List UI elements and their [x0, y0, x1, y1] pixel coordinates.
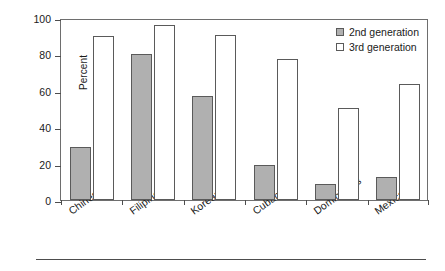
- bar-chinese-2nd-generation: [70, 147, 91, 200]
- x-tick-cubans: [245, 200, 246, 205]
- legend-item-2nd-generation: 2nd generation: [336, 26, 419, 38]
- legend-item-3rd-generation: 3rd generation: [336, 41, 419, 53]
- y-tick-label-80: 80: [39, 49, 51, 61]
- bar-cubans-3rd-generation: [277, 59, 298, 200]
- chart-legend: 2nd generation 3rd generation: [336, 26, 419, 53]
- y-tick-label-40: 40: [39, 122, 51, 134]
- legend-swatch-icon-2nd-generation: [336, 28, 344, 36]
- bar-filipinos-3rd-generation: [154, 25, 175, 200]
- plot-area: Percent 020406080100 ChineseFilipinosKor…: [60, 19, 428, 201]
- y-tick-20: 20: [55, 166, 61, 167]
- bar-koreans-2nd-generation: [192, 96, 213, 200]
- y-tick-label-0: 0: [45, 195, 51, 207]
- bar-filipinos-2nd-generation: [131, 54, 152, 200]
- x-tick-chinese: [61, 200, 62, 205]
- y-tick-100: 100: [55, 20, 61, 21]
- y-tick-label-20: 20: [39, 159, 51, 171]
- y-tick-label-60: 60: [39, 86, 51, 98]
- bar-mexicans-3rd-generation: [399, 84, 420, 200]
- y-tick-label-100: 100: [33, 13, 51, 25]
- x-tick-mexicans: [368, 200, 369, 205]
- footer-divider: [36, 259, 426, 260]
- x-tick-koreans: [184, 200, 185, 205]
- x-tick-end: [428, 200, 429, 205]
- bar-mexicans-2nd-generation: [376, 177, 397, 200]
- bar-dominicans-3rd-generation: [338, 108, 359, 200]
- bar-chart-figure: Percent 020406080100 ChineseFilipinosKor…: [0, 0, 445, 271]
- x-tick-dominicans: [306, 200, 307, 205]
- y-axis-title: Percent: [78, 13, 89, 133]
- y-tick-40: 40: [55, 129, 61, 130]
- y-tick-60: 60: [55, 93, 61, 94]
- bar-dominicans-2nd-generation: [315, 184, 336, 200]
- legend-swatch-icon-3rd-generation: [336, 43, 344, 51]
- bar-cubans-2nd-generation: [254, 165, 275, 200]
- x-tick-filipinos: [122, 200, 123, 205]
- bar-chinese-3rd-generation: [93, 36, 114, 200]
- y-tick-80: 80: [55, 56, 61, 57]
- bar-koreans-3rd-generation: [215, 35, 236, 200]
- legend-label-3rd-generation: 3rd generation: [349, 41, 417, 53]
- legend-label-2nd-generation: 2nd generation: [349, 26, 419, 38]
